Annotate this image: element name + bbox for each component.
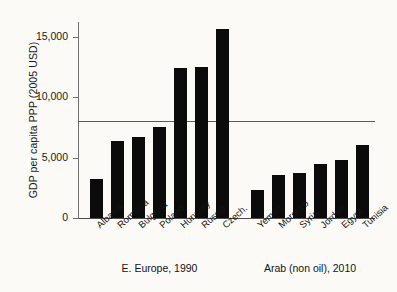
group-caption: Arab (non oil), 2010 <box>240 262 380 274</box>
group-caption: E. Europe, 1990 <box>90 262 230 274</box>
bars-group <box>0 0 397 219</box>
bar <box>216 29 229 218</box>
chart-figure: GDP per capita PPP (2005 USD) 05,00010,0… <box>0 0 397 292</box>
bar <box>174 68 187 218</box>
bar <box>90 179 103 218</box>
bar <box>195 67 208 218</box>
